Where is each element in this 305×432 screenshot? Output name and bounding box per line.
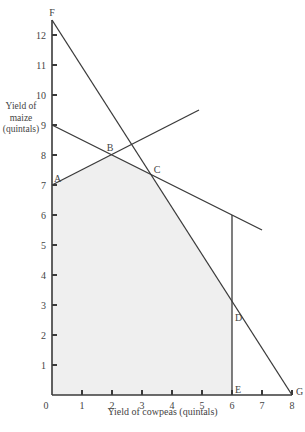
y-tick-label: 6 — [41, 210, 46, 221]
point-label-c: C — [154, 164, 161, 175]
y-axis-title-line: maize — [0, 113, 42, 125]
y-tick-label: 3 — [41, 300, 46, 311]
y-tick-label: 8 — [41, 150, 46, 161]
point-label-d: D — [235, 312, 242, 323]
y-axis-title-line: Yield of — [0, 101, 42, 113]
x-axis-title: Yield of cowpeas (quintals) — [0, 406, 305, 417]
chart: 123456789101112012345678 FABCDEG — [0, 0, 305, 432]
y-axis-title: Yield of maize (quintals) — [0, 101, 42, 136]
y-tick-label: 10 — [36, 90, 46, 101]
y-tick-label: 12 — [36, 30, 46, 41]
y-tick-label: 11 — [36, 60, 46, 71]
point-label-f: F — [49, 7, 55, 18]
point-label-b: B — [107, 142, 114, 153]
point-label-a: A — [54, 173, 62, 184]
feasible-region — [52, 155, 232, 395]
y-tick-label: 1 — [41, 360, 46, 371]
point-label-e: E — [235, 384, 241, 395]
y-tick-label: 5 — [41, 240, 46, 251]
point-label-g: G — [296, 386, 303, 397]
y-tick-label: 7 — [41, 180, 46, 191]
y-tick-label: 4 — [41, 270, 46, 281]
y-tick-label: 2 — [41, 330, 46, 341]
y-axis-title-line: (quintals) — [0, 124, 42, 136]
